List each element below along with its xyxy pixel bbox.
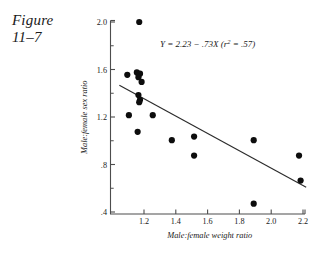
data-point	[135, 129, 141, 135]
x-tick-label: 1.6	[202, 217, 212, 226]
y-tick-label: 1.2	[97, 113, 107, 122]
data-point	[136, 19, 142, 25]
data-point	[251, 201, 257, 207]
data-point	[136, 99, 142, 105]
data-point	[191, 133, 197, 139]
y-tick-label: .8	[101, 161, 107, 170]
y-tick-label: .4	[101, 208, 107, 217]
data-point	[298, 177, 304, 183]
y-tick-label: 2.0	[97, 18, 107, 27]
x-axis-title: Male:female weight ratio	[166, 231, 252, 240]
y-tick-label: 1.6	[97, 66, 107, 75]
data-point	[150, 112, 156, 118]
x-axis-tick-labels: 1.21.41.61.82.02.2	[139, 217, 308, 226]
plot-axes	[111, 21, 306, 215]
x-tick-label: 1.8	[234, 217, 244, 226]
regression-equation-annotation: Y = 2.23 − .73X (r2 = .57)	[160, 38, 255, 49]
data-point	[191, 152, 197, 158]
x-tick-label: 1.4	[171, 217, 181, 226]
x-tick-label: 2.0	[266, 217, 276, 226]
scatter-plot: 1.21.41.61.82.02.2 .4.81.21.62.0 Male:fe…	[0, 0, 325, 258]
x-tick-label: 1.2	[139, 217, 149, 226]
major-ticks	[111, 22, 304, 214]
y-axis-title: Male:female sex ratio	[80, 81, 89, 156]
data-point	[126, 112, 132, 118]
regression-line	[119, 85, 306, 187]
data-point	[251, 137, 257, 143]
data-point	[296, 152, 302, 158]
x-tick-label: 2.2	[298, 217, 308, 226]
figure-container: Figure 11–7 1.21.41.61.82.02.2 .4.81.21.…	[0, 0, 325, 258]
y-axis-tick-labels: .4.81.21.62.0	[97, 18, 107, 217]
data-point	[124, 72, 130, 78]
data-point	[139, 79, 145, 85]
data-point	[169, 137, 175, 143]
